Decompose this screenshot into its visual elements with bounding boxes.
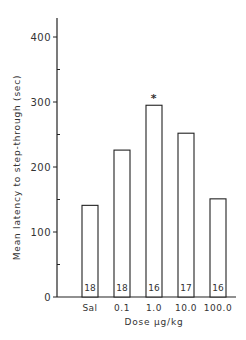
y-tick-label: 200	[30, 162, 51, 173]
sample-size-label: 16	[212, 283, 224, 293]
x-axis-title: Dose µg/kg	[125, 317, 184, 327]
x-tick-label: 1.0	[146, 303, 162, 313]
x-tick-label: 0.1	[114, 303, 130, 313]
bar-10.0	[178, 133, 194, 297]
y-axis-title: Mean latency to step-through (sec)	[12, 75, 22, 261]
sample-size-label: 18	[84, 283, 96, 293]
sample-size-label: 17	[180, 283, 191, 293]
y-tick-label: 100	[30, 227, 51, 238]
x-tick-label: 10.0	[175, 303, 197, 313]
y-tick-label: 0	[44, 292, 51, 303]
x-tick-label: 100.0	[204, 303, 232, 313]
y-tick-label: 300	[30, 97, 51, 108]
bar-0.1	[114, 150, 130, 297]
x-tick-label: Sal	[82, 303, 97, 313]
sample-size-label: 16	[148, 283, 160, 293]
bar-chart: 010020030040018Sal180.1161.0*1710.016100…	[0, 0, 246, 340]
y-tick-label: 400	[30, 32, 51, 43]
significance-marker: *	[151, 92, 157, 105]
sample-size-label: 18	[116, 283, 128, 293]
bar-1.0	[146, 105, 162, 297]
